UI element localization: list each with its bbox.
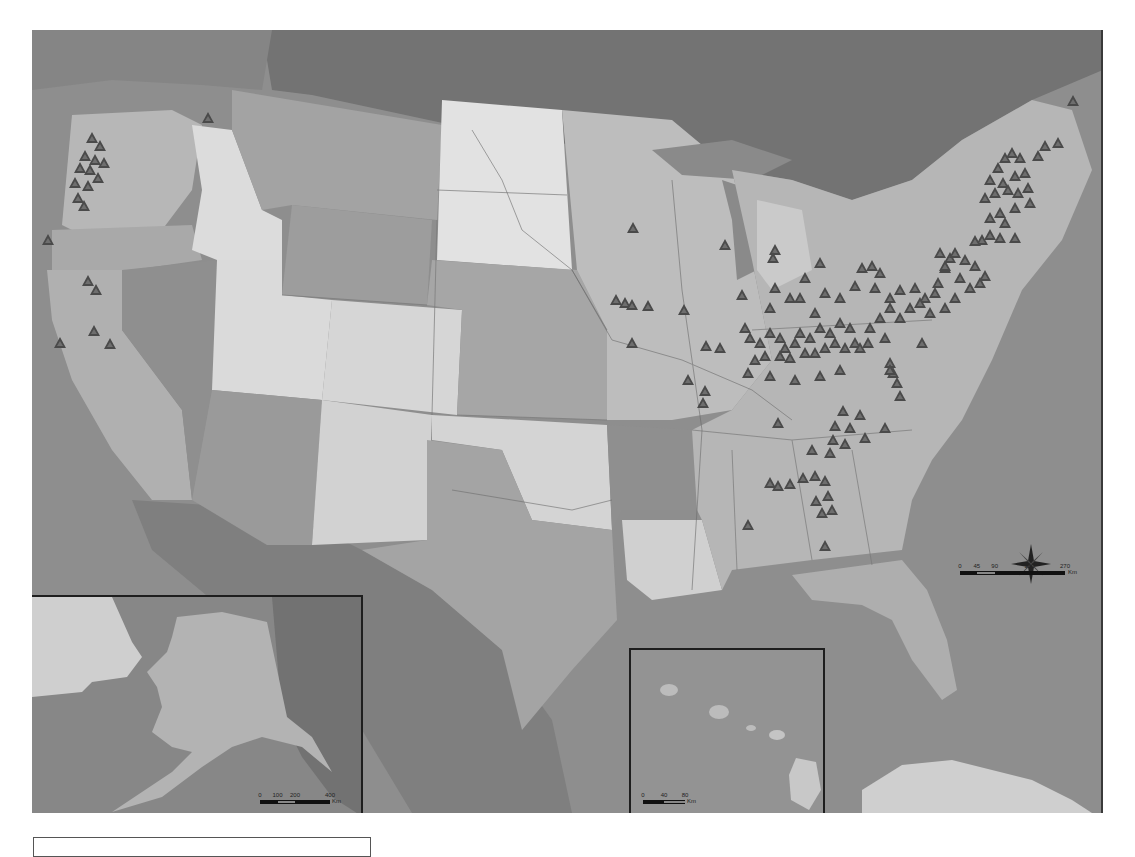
site-marker-triangle-icon[interactable] xyxy=(627,222,639,233)
site-marker-triangle-icon[interactable] xyxy=(849,280,861,291)
site-marker-triangle-icon[interactable] xyxy=(764,302,776,313)
site-marker-triangle-icon[interactable] xyxy=(78,200,90,211)
site-marker-triangle-icon[interactable] xyxy=(1039,140,1051,151)
site-marker-triangle-icon[interactable] xyxy=(819,475,831,486)
main-map[interactable]: 0 45 90 180 270 Km 0 100 200 400 xyxy=(32,30,1103,813)
site-marker-triangle-icon[interactable] xyxy=(699,385,711,396)
site-marker-triangle-icon[interactable] xyxy=(862,337,874,348)
site-marker-triangle-icon[interactable] xyxy=(864,322,876,333)
site-marker-triangle-icon[interactable] xyxy=(999,217,1011,228)
site-marker-triangle-icon[interactable] xyxy=(837,405,849,416)
site-marker-triangle-icon[interactable] xyxy=(754,337,766,348)
site-marker-triangle-icon[interactable] xyxy=(1067,95,1079,106)
site-marker-triangle-icon[interactable] xyxy=(749,354,761,365)
site-marker-triangle-icon[interactable] xyxy=(814,257,826,268)
site-marker-triangle-icon[interactable] xyxy=(891,377,903,388)
site-marker-triangle-icon[interactable] xyxy=(929,287,941,298)
site-marker-triangle-icon[interactable] xyxy=(1009,170,1021,181)
hawaii-inset-map[interactable]: 0 40 80 Km xyxy=(629,648,825,813)
site-marker-triangle-icon[interactable] xyxy=(844,422,856,433)
site-marker-triangle-icon[interactable] xyxy=(42,234,54,245)
site-marker-triangle-icon[interactable] xyxy=(834,292,846,303)
site-marker-triangle-icon[interactable] xyxy=(879,332,891,343)
site-marker-triangle-icon[interactable] xyxy=(736,289,748,300)
site-marker-triangle-icon[interactable] xyxy=(1032,150,1044,161)
site-marker-triangle-icon[interactable] xyxy=(774,350,786,361)
site-marker-triangle-icon[interactable] xyxy=(769,282,781,293)
site-marker-triangle-icon[interactable] xyxy=(202,112,214,123)
site-marker-triangle-icon[interactable] xyxy=(626,299,638,310)
alaska-inset-map[interactable]: 0 100 200 400 Km xyxy=(32,595,363,813)
site-marker-triangle-icon[interactable] xyxy=(834,364,846,375)
site-marker-triangle-icon[interactable] xyxy=(984,212,996,223)
site-marker-triangle-icon[interactable] xyxy=(804,332,816,343)
site-marker-triangle-icon[interactable] xyxy=(772,480,784,491)
site-marker-triangle-icon[interactable] xyxy=(104,338,116,349)
site-marker-triangle-icon[interactable] xyxy=(869,282,881,293)
site-marker-triangle-icon[interactable] xyxy=(767,252,779,263)
site-marker-triangle-icon[interactable] xyxy=(69,177,81,188)
site-marker-triangle-icon[interactable] xyxy=(824,447,836,458)
site-marker-triangle-icon[interactable] xyxy=(764,370,776,381)
site-marker-triangle-icon[interactable] xyxy=(822,490,834,501)
site-marker-triangle-icon[interactable] xyxy=(714,342,726,353)
site-marker-triangle-icon[interactable] xyxy=(810,495,822,506)
site-marker-triangle-icon[interactable] xyxy=(859,432,871,443)
site-marker-triangle-icon[interactable] xyxy=(992,162,1004,173)
site-marker-triangle-icon[interactable] xyxy=(1052,137,1064,148)
site-marker-triangle-icon[interactable] xyxy=(989,187,1001,198)
site-marker-triangle-icon[interactable] xyxy=(994,232,1006,243)
site-marker-triangle-icon[interactable] xyxy=(984,174,996,185)
site-marker-triangle-icon[interactable] xyxy=(809,307,821,318)
site-marker-triangle-icon[interactable] xyxy=(742,367,754,378)
site-marker-triangle-icon[interactable] xyxy=(700,340,712,351)
site-marker-triangle-icon[interactable] xyxy=(626,337,638,348)
site-marker-triangle-icon[interactable] xyxy=(54,337,66,348)
site-marker-triangle-icon[interactable] xyxy=(969,235,981,246)
site-marker-triangle-icon[interactable] xyxy=(697,397,709,408)
site-marker-triangle-icon[interactable] xyxy=(682,374,694,385)
site-marker-triangle-icon[interactable] xyxy=(914,297,926,308)
site-marker-triangle-icon[interactable] xyxy=(1009,202,1021,213)
site-marker-triangle-icon[interactable] xyxy=(742,519,754,530)
site-marker-triangle-icon[interactable] xyxy=(854,409,866,420)
site-marker-triangle-icon[interactable] xyxy=(1009,232,1021,243)
site-marker-triangle-icon[interactable] xyxy=(894,312,906,323)
site-marker-triangle-icon[interactable] xyxy=(678,304,690,315)
site-marker-triangle-icon[interactable] xyxy=(1014,152,1026,163)
site-marker-triangle-icon[interactable] xyxy=(827,434,839,445)
site-marker-triangle-icon[interactable] xyxy=(819,540,831,551)
site-marker-triangle-icon[interactable] xyxy=(819,287,831,298)
site-marker-triangle-icon[interactable] xyxy=(794,292,806,303)
site-marker-triangle-icon[interactable] xyxy=(844,322,856,333)
site-marker-triangle-icon[interactable] xyxy=(98,157,110,168)
site-marker-triangle-icon[interactable] xyxy=(1024,197,1036,208)
site-marker-triangle-icon[interactable] xyxy=(924,307,936,318)
site-marker-triangle-icon[interactable] xyxy=(916,337,928,348)
site-marker-triangle-icon[interactable] xyxy=(82,180,94,191)
site-marker-triangle-icon[interactable] xyxy=(642,300,654,311)
site-marker-triangle-icon[interactable] xyxy=(839,438,851,449)
site-marker-triangle-icon[interactable] xyxy=(879,422,891,433)
site-marker-triangle-icon[interactable] xyxy=(874,267,886,278)
site-marker-triangle-icon[interactable] xyxy=(1022,182,1034,193)
site-marker-triangle-icon[interactable] xyxy=(772,417,784,428)
site-marker-triangle-icon[interactable] xyxy=(806,444,818,455)
site-marker-triangle-icon[interactable] xyxy=(789,374,801,385)
site-marker-triangle-icon[interactable] xyxy=(884,364,896,375)
site-marker-triangle-icon[interactable] xyxy=(90,284,102,295)
site-marker-triangle-icon[interactable] xyxy=(934,247,946,258)
site-marker-triangle-icon[interactable] xyxy=(894,390,906,401)
site-marker-triangle-icon[interactable] xyxy=(94,140,106,151)
site-marker-triangle-icon[interactable] xyxy=(784,478,796,489)
site-marker-triangle-icon[interactable] xyxy=(874,312,886,323)
site-marker-triangle-icon[interactable] xyxy=(799,272,811,283)
site-marker-triangle-icon[interactable] xyxy=(719,239,731,250)
site-marker-triangle-icon[interactable] xyxy=(939,260,951,271)
site-marker-triangle-icon[interactable] xyxy=(939,302,951,313)
site-marker-triangle-icon[interactable] xyxy=(979,270,991,281)
site-marker-triangle-icon[interactable] xyxy=(88,325,100,336)
site-marker-triangle-icon[interactable] xyxy=(814,370,826,381)
site-marker-triangle-icon[interactable] xyxy=(894,284,906,295)
site-marker-triangle-icon[interactable] xyxy=(797,472,809,483)
